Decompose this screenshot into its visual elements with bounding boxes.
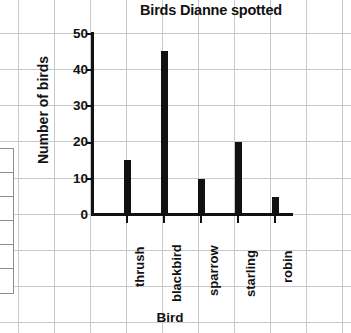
bar-robin[interactable] <box>272 197 279 215</box>
y-tick-mark <box>87 33 92 35</box>
x-category-label-sparrow: sparrow <box>206 245 221 296</box>
bar-starling[interactable] <box>235 142 242 215</box>
x-tick-mark <box>200 216 202 223</box>
bar-thrush[interactable] <box>124 160 131 215</box>
y-axis-line <box>91 32 94 216</box>
y-tick-label-20: 20 <box>42 135 88 149</box>
x-axis-line <box>91 213 293 216</box>
x-tick-mark <box>126 216 128 223</box>
y-tick-label-40: 40 <box>42 63 88 77</box>
bar-sparrow[interactable] <box>198 179 205 215</box>
y-tick-label-30: 30 <box>42 99 88 113</box>
y-tick-label-10: 10 <box>42 172 88 186</box>
x-axis-label: Bird <box>130 310 210 325</box>
x-tick-mark <box>163 216 165 223</box>
y-tick-mark <box>87 69 92 71</box>
x-category-label-robin: robin <box>280 251 295 284</box>
worksheet-page: Birds Dianne spotted Number of birds Bir… <box>0 0 351 333</box>
y-tick-mark <box>87 178 92 180</box>
x-category-label-thrush: thrush <box>132 247 147 287</box>
chart-title: Birds Dianne spotted <box>104 2 318 18</box>
x-category-label-blackbird: blackbird <box>169 244 184 302</box>
y-tick-label-50: 50 <box>42 27 88 41</box>
x-category-label-starling: starling <box>243 250 258 297</box>
x-tick-mark <box>237 216 239 223</box>
y-tick-label-0: 0 <box>42 208 88 222</box>
y-tick-mark <box>87 142 92 144</box>
x-tick-mark <box>274 216 276 223</box>
bar-chart: Birds Dianne spotted Number of birds Bir… <box>0 0 351 333</box>
bar-blackbird[interactable] <box>161 51 168 215</box>
y-tick-mark <box>87 105 92 107</box>
